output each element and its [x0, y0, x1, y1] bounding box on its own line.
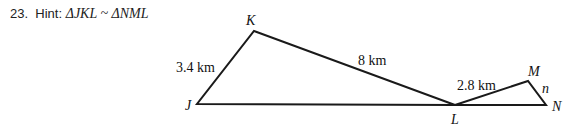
- side-jk-label: 3.4 km: [176, 60, 215, 75]
- vertex-n: N: [551, 99, 562, 114]
- side-lm-label: 2.8 km: [457, 78, 496, 93]
- triangle-jkl: [197, 31, 455, 105]
- vertex-k: K: [245, 13, 256, 28]
- triangle-figure: K J L M N 3.4 km 8 km 2.8 km n: [0, 0, 580, 131]
- side-mn-label: n: [542, 81, 549, 96]
- vertex-l: L: [450, 112, 459, 127]
- side-kl-label: 8 km: [358, 53, 387, 68]
- vertex-m: M: [527, 64, 541, 79]
- vertex-j: J: [185, 98, 192, 113]
